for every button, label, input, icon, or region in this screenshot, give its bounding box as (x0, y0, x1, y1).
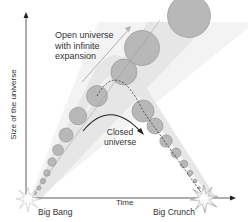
big-bang-label: Big Bang (38, 207, 73, 217)
x-axis-arrow-icon (230, 196, 236, 201)
universe-diagram (0, 0, 248, 222)
closed-universe-circles (132, 100, 200, 189)
closed-universe-label: Closed universe (104, 127, 136, 147)
open-universe-label: Open universe with infinite expansion (55, 30, 114, 62)
x-axis-label: Time (116, 198, 133, 207)
y-axis-label: Size of the universe (9, 55, 18, 155)
y-axis-arrow-icon (24, 12, 29, 18)
big-crunch-label: Big Crunch (153, 207, 195, 217)
